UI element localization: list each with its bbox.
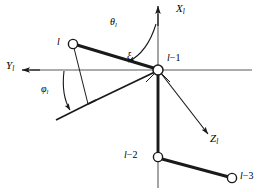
x-axis-label-base: X (176, 2, 183, 14)
phi-subscript: l (47, 88, 49, 95)
node-l-minus-2-label: l−2 (124, 150, 137, 160)
node-l-minus-2-label-suffix: −2 (127, 149, 138, 160)
phi-angle-arc (63, 71, 70, 110)
projection-edge (88, 71, 157, 104)
link-segment-lower (162, 159, 229, 177)
xi-subscript: l (131, 55, 133, 62)
node-l-label: l (57, 37, 60, 47)
node-l-minus-3-label-suffix: −3 (243, 170, 254, 181)
link-l-to-l-minus-1 (77, 45, 157, 69)
node-l-minus-3 (227, 173, 236, 182)
drop-line (74, 48, 88, 104)
z-axis (160, 72, 208, 134)
node-l-label-base: l (57, 36, 60, 47)
node-l-minus-1-label: l−1 (167, 53, 180, 63)
phi-angle-label: φl (41, 84, 48, 95)
xi-segment-label: ξl (127, 51, 133, 62)
theta-subscript: l (115, 21, 117, 28)
phi-arc-path (63, 71, 70, 110)
diagram-svg (0, 0, 260, 192)
link-l-minus-2-to-l-minus-3 (162, 159, 229, 177)
ground-stub-line (56, 100, 96, 120)
y-axis-label-sub: l (12, 65, 14, 73)
node-l-minus-1-label-suffix: −1 (170, 52, 181, 63)
ground-plane-stub (56, 100, 96, 120)
figure-canvas: Xl Yl Zl θl φl ξl l l−1 l−2 l−3 (0, 0, 260, 192)
y-axis-label: Yl (6, 60, 14, 73)
node-l-minus-2 (153, 152, 162, 161)
link-segment-xi (77, 45, 157, 69)
z-axis-arrow-line (160, 72, 208, 134)
z-axis-label-sub: l (216, 138, 218, 146)
projection-base-line (88, 71, 157, 104)
projection-drop-line (74, 48, 88, 104)
z-axis-label: Zl (210, 133, 218, 146)
node-l-minus-1 (153, 65, 163, 75)
node-l-minus-3-label: l−3 (240, 171, 253, 181)
theta-angle-label: θl (110, 17, 117, 28)
x-axis-label: Xl (176, 3, 185, 16)
node-l (68, 39, 77, 48)
x-axis-label-sub: l (183, 8, 185, 16)
